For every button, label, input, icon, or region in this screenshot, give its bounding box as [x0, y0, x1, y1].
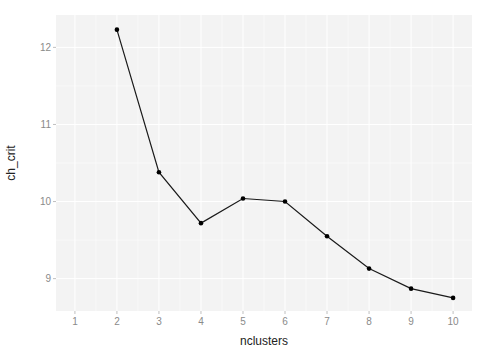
- y-axis-ticks: 9101112: [40, 42, 56, 284]
- y-tick-label: 12: [40, 42, 52, 53]
- line-chart: 9101112 12345678910 nclusters ch_crit: [0, 0, 481, 362]
- x-tick-label: 1: [72, 316, 78, 327]
- y-tick-label: 10: [40, 196, 52, 207]
- x-tick-label: 6: [282, 316, 288, 327]
- y-axis-title: ch_crit: [4, 145, 18, 181]
- x-tick-label: 10: [448, 316, 460, 327]
- data-point: [409, 286, 414, 291]
- data-point: [367, 266, 372, 271]
- x-tick-label: 7: [324, 316, 330, 327]
- data-point: [325, 234, 330, 239]
- x-tick-label: 5: [240, 316, 246, 327]
- data-point: [451, 296, 456, 301]
- x-tick-label: 3: [156, 316, 162, 327]
- data-point: [199, 221, 204, 226]
- data-point: [241, 196, 246, 201]
- x-tick-label: 8: [366, 316, 372, 327]
- x-tick-label: 4: [198, 316, 204, 327]
- x-axis-ticks: 12345678910: [72, 311, 459, 327]
- x-axis-title: nclusters: [240, 334, 288, 348]
- data-point: [157, 170, 162, 175]
- data-point: [283, 199, 288, 204]
- x-tick-label: 2: [114, 316, 120, 327]
- y-tick-label: 11: [41, 119, 52, 130]
- data-point: [115, 27, 120, 32]
- y-tick-label: 9: [45, 273, 51, 284]
- x-tick-label: 9: [408, 316, 414, 327]
